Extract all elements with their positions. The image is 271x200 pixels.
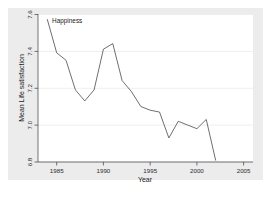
x-tick-label-1995: 1995	[143, 167, 157, 174]
series-label-happiness: Happiness	[52, 17, 82, 25]
x-tick-label-2005: 2005	[237, 167, 251, 174]
x-tick-label-1985: 1985	[50, 167, 64, 174]
y-tick-label-7-4: 7.4	[26, 47, 33, 56]
y-axis-title: Mean Life satisfaction	[18, 54, 25, 122]
x-axis: 1985 1990 1995 2000 2005 Year	[38, 162, 253, 183]
y-tick-label-7-0: 7.0	[26, 120, 33, 129]
line-chart: 7.6 7.4 7.2 7.0 6.8 Mean Life satisfacti…	[0, 0, 271, 200]
y-tick-label-7-6: 7.6	[26, 10, 33, 19]
y-axis: 7.6 7.4 7.2 7.0 6.8 Mean Life satisfacti…	[18, 10, 38, 167]
x-axis-title: Year	[138, 176, 153, 183]
chart-figure: 7.6 7.4 7.2 7.0 6.8 Mean Life satisfacti…	[0, 0, 271, 200]
y-tick-label-6-8: 6.8	[26, 157, 33, 166]
x-tick-label-2000: 2000	[190, 167, 204, 174]
y-tick-label-7-2: 7.2	[26, 83, 33, 92]
x-tick-label-1990: 1990	[97, 167, 111, 174]
